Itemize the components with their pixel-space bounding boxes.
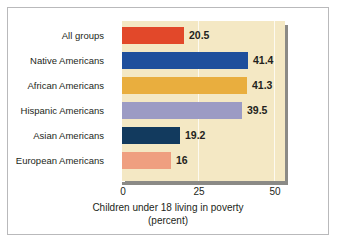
bar-row: European Americans 16 <box>8 152 328 169</box>
bar-value-label: 19.2 <box>185 127 205 144</box>
bar-value-label: 39.5 <box>247 102 267 119</box>
category-label: Hispanic Americans <box>0 102 104 119</box>
bar <box>122 77 247 94</box>
bar-row: All groups 20.5 <box>8 27 328 44</box>
x-axis-line <box>122 182 288 185</box>
category-label: All groups <box>0 27 104 44</box>
chart-figure: All groups 20.5 Native Americans 41.4 Af… <box>7 7 329 235</box>
bar-value-label: 20.5 <box>189 27 209 44</box>
bar-value-label: 16 <box>176 152 188 169</box>
caption-line-1: Children under 18 living in poverty <box>8 201 328 214</box>
x-tick-25: 25 <box>193 186 204 197</box>
bar <box>122 102 242 119</box>
bar-value-label: 41.4 <box>253 52 273 69</box>
category-label: Native Americans <box>0 52 104 69</box>
category-label: European Americans <box>0 152 104 169</box>
bar-row: Hispanic Americans 39.5 <box>8 102 328 119</box>
bar <box>122 127 180 144</box>
x-tick-50: 50 <box>269 186 280 197</box>
bar <box>122 152 171 169</box>
x-tick-0: 0 <box>120 186 126 197</box>
bar-row: African Americans 41.3 <box>8 77 328 94</box>
category-label: African Americans <box>0 77 104 94</box>
bar-row: Native Americans 41.4 <box>8 52 328 69</box>
bar-value-label: 41.3 <box>252 77 272 94</box>
bar <box>122 52 248 69</box>
caption-line-2: (percent) <box>8 214 328 227</box>
category-label: Asian Americans <box>0 127 104 144</box>
bar-row: Asian Americans 19.2 <box>8 127 328 144</box>
bar <box>122 27 184 44</box>
x-axis-caption: Children under 18 living in poverty (per… <box>8 201 328 227</box>
